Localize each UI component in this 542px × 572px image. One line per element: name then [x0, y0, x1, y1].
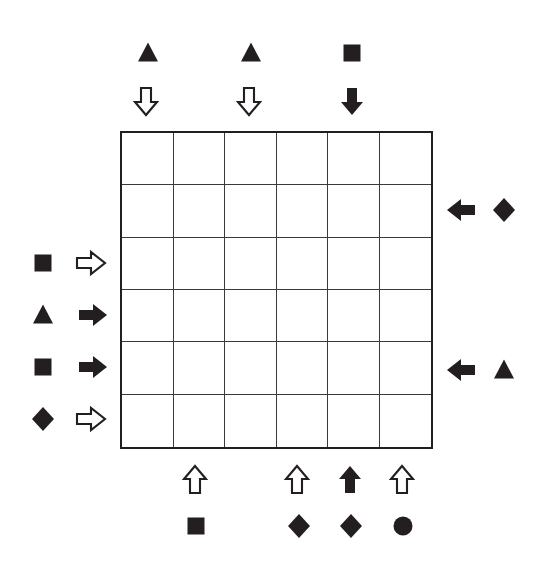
grid-cell-r2-c3[interactable]	[225, 185, 277, 237]
circle-filled-icon	[386, 509, 420, 543]
grid-cell-r1-c5[interactable]	[328, 133, 380, 185]
square-filled-icon	[335, 36, 369, 70]
grid-cell-r5-c6[interactable]	[380, 342, 432, 394]
grid-cell-r5-c1[interactable]	[122, 342, 174, 394]
diamond-filled-icon	[282, 509, 316, 543]
grid-cell-r3-c1[interactable]	[122, 238, 174, 290]
grid-cell-r1-c2[interactable]	[174, 133, 226, 185]
grid-cell-r6-c2[interactable]	[174, 395, 226, 447]
grid-cell-r6-c6[interactable]	[380, 395, 432, 447]
grid-cell-r4-c1[interactable]	[122, 290, 174, 342]
arrow-up-hollow-icon	[385, 463, 419, 497]
triangle-filled-icon	[26, 298, 60, 332]
grid-cell-r5-c2[interactable]	[174, 342, 226, 394]
square-filled-icon	[26, 350, 60, 384]
puzzle-canvas	[0, 0, 542, 572]
arrow-down-filled-icon	[335, 84, 369, 118]
arrow-right-filled-icon	[76, 298, 110, 332]
arrow-right-hollow-icon	[74, 246, 108, 280]
grid-cell-r2-c1[interactable]	[122, 185, 174, 237]
grid-cell-r1-c1[interactable]	[122, 133, 174, 185]
grid-cell-r4-c6[interactable]	[380, 290, 432, 342]
grid-cell-r2-c5[interactable]	[328, 185, 380, 237]
grid-cell-r1-c6[interactable]	[380, 133, 432, 185]
grid-cell-r1-c3[interactable]	[225, 133, 277, 185]
arrow-left-filled-icon	[444, 353, 478, 387]
arrow-right-filled-icon	[76, 350, 110, 384]
grid-cell-r6-c3[interactable]	[225, 395, 277, 447]
grid-cell-r2-c4[interactable]	[277, 185, 329, 237]
diamond-filled-icon	[487, 193, 521, 227]
grid-cell-r6-c5[interactable]	[328, 395, 380, 447]
arrow-up-hollow-icon	[280, 463, 314, 497]
grid-cell-r5-c3[interactable]	[225, 342, 277, 394]
grid-cell-r4-c5[interactable]	[328, 290, 380, 342]
grid-cell-r4-c2[interactable]	[174, 290, 226, 342]
grid-cell-r5-c4[interactable]	[277, 342, 329, 394]
grid-cell-r2-c6[interactable]	[380, 185, 432, 237]
grid-cell-r4-c4[interactable]	[277, 290, 329, 342]
triangle-filled-icon	[234, 36, 268, 70]
grid-cell-r3-c4[interactable]	[277, 238, 329, 290]
grid-cell-r4-c3[interactable]	[225, 290, 277, 342]
square-filled-icon	[26, 246, 60, 280]
grid-cell-r3-c6[interactable]	[380, 238, 432, 290]
diamond-filled-icon	[26, 402, 60, 436]
grid-cell-r3-c2[interactable]	[174, 238, 226, 290]
grid-cell-r3-c5[interactable]	[328, 238, 380, 290]
arrow-right-hollow-icon	[74, 402, 108, 436]
triangle-filled-icon	[131, 36, 165, 70]
arrow-left-filled-icon	[444, 193, 478, 227]
grid-cell-r6-c4[interactable]	[277, 395, 329, 447]
grid-cell-r5-c5[interactable]	[328, 342, 380, 394]
square-filled-icon	[179, 509, 213, 543]
diamond-filled-icon	[334, 509, 368, 543]
arrow-up-filled-icon	[333, 463, 367, 497]
grid-cell-r1-c4[interactable]	[277, 133, 329, 185]
arrow-down-hollow-icon	[129, 84, 163, 118]
puzzle-grid[interactable]	[120, 131, 433, 449]
grid-cell-r2-c2[interactable]	[174, 185, 226, 237]
grid-cell-r6-c1[interactable]	[122, 395, 174, 447]
triangle-filled-icon	[487, 353, 521, 387]
arrow-down-hollow-icon	[232, 84, 266, 118]
arrow-up-hollow-icon	[178, 463, 212, 497]
grid-cell-r3-c3[interactable]	[225, 238, 277, 290]
